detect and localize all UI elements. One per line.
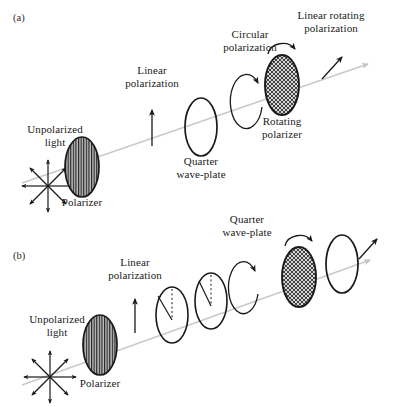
quarter-waveplate-a-label: Quarter wave-plate [152,155,250,180]
elliptic-polarization-label: Quarter wave-plate [199,213,295,238]
rotating-polarizer-a [265,55,299,115]
linear-rotating-arrow-b [359,239,377,259]
linear-polarization-label-b: Linear polarization [87,256,183,281]
panel-a-tag: (a) [13,12,25,23]
rotating-polarizer-a-label: Rotating polarizer [240,115,324,140]
unpolarized-light-label-a: Unpolarized light [5,123,105,148]
polarizer-b-label: Polarizer [65,377,135,390]
half-waveplate [156,287,188,343]
linear-rotating-polarization-label-a: Linear rotating polarization [272,9,390,34]
quarter-waveplate-a [185,98,217,156]
linear-polarization-label-a: Linear polarization [104,64,200,89]
quarter-waveplate-b [195,273,227,329]
dichroic-mirror [326,235,358,293]
polarizer-a-label: Polarizer [47,196,117,209]
unpolarized-light-label-b: Unpolarized light [7,313,107,338]
rotating-polarizer-b [282,247,316,307]
panel-b-tag: (b) [13,250,25,261]
